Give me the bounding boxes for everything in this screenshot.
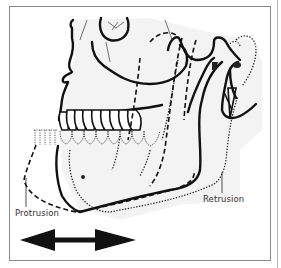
retrusion-label: Retrusion — [203, 194, 244, 204]
diagram-stage: Protrusion Retrusion — [0, 0, 281, 268]
protrusion-label: Protrusion — [15, 208, 59, 218]
double-arrow-icon — [20, 229, 136, 251]
protruded-teeth — [34, 130, 58, 145]
jaw-diagram — [0, 0, 281, 268]
upper-teeth — [59, 110, 141, 130]
